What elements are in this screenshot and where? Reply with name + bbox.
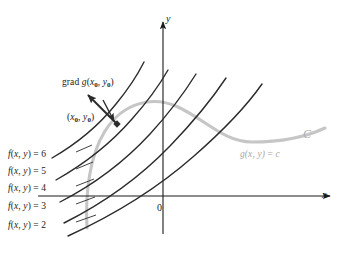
label-leader-line — [76, 145, 92, 152]
constraint-label-value: c — [275, 149, 279, 159]
level-curve-label: f(x, y) = 2 — [8, 221, 46, 231]
level-curve-label: f(x, y) = 3 — [8, 202, 46, 212]
x-axis-label: x — [322, 190, 327, 200]
gradient-vector-label: grad g(x0, y0) — [62, 78, 114, 89]
constraint-label-args: (x, y) — [245, 149, 265, 159]
y-axis-label: y — [166, 14, 171, 24]
gradient-label-prefix: grad — [62, 77, 82, 87]
constraint-curve-group — [87, 102, 325, 228]
level-curve-label: f(x, y) = 5 — [8, 167, 46, 177]
constraint-equation-label: g(x, y) = c — [240, 150, 280, 160]
point-label-close: ) — [91, 112, 94, 122]
origin-label: 0 — [157, 203, 162, 213]
level-curve-label: f(x, y) = 4 — [8, 184, 46, 194]
figure-canvas: x y 0 grad g(x0, y0) (x0, y0) C g(x, y) … — [0, 0, 348, 254]
constraint-curve-c — [87, 102, 325, 228]
constraint-label-equals: = — [265, 149, 275, 159]
level-curve — [68, 84, 262, 236]
gradient-label-close: ) — [111, 77, 114, 87]
label-leader-line — [76, 179, 94, 186]
level-curve-label: f(x, y) = 6 — [8, 150, 46, 160]
diagram-svg — [0, 0, 348, 254]
tangency-point-label: (x0, y0) — [67, 113, 94, 124]
curve-c-label: C — [303, 128, 311, 140]
